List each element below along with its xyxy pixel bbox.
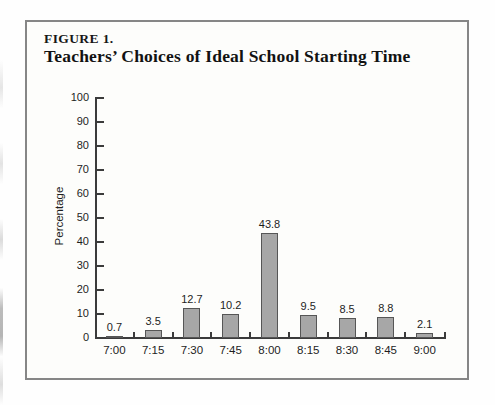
bar xyxy=(183,308,200,338)
y-tick-label: 0 xyxy=(53,331,89,344)
y-tick xyxy=(97,193,104,195)
bar-value-label: 8.5 xyxy=(327,303,367,316)
y-tick xyxy=(97,265,104,267)
figure-panel: FIGURE 1. Teachers’ Choices of Ideal Sch… xyxy=(25,20,469,380)
y-tick xyxy=(97,169,104,171)
y-tick xyxy=(97,217,104,219)
bar-value-label: 8.8 xyxy=(366,302,406,315)
y-tick-label: 100 xyxy=(53,91,89,104)
bar-value-label: 10.2 xyxy=(211,299,251,312)
y-tick-label: 30 xyxy=(53,259,89,272)
bar-chart: Percentage 01020304050607080901000.77:00… xyxy=(27,22,467,378)
y-tick xyxy=(97,97,104,99)
bar-value-label: 3.5 xyxy=(133,315,173,328)
y-tick-label: 90 xyxy=(53,115,89,128)
y-tick-label: 50 xyxy=(53,211,89,224)
bar xyxy=(300,315,317,338)
x-tick xyxy=(288,332,290,337)
bar xyxy=(377,317,394,338)
bar-value-label: 9.5 xyxy=(288,300,328,313)
y-tick xyxy=(97,121,104,123)
x-tick xyxy=(404,332,406,337)
y-tick xyxy=(97,337,104,339)
bar xyxy=(106,336,123,338)
x-tick xyxy=(327,332,329,337)
x-tick xyxy=(210,332,212,337)
bar xyxy=(145,330,162,338)
bar-value-label: 0.7 xyxy=(94,321,134,334)
bar-value-label: 12.7 xyxy=(172,293,212,306)
x-tick xyxy=(444,332,446,337)
y-tick xyxy=(97,289,104,291)
y-tick-label: 20 xyxy=(53,283,89,296)
x-tick xyxy=(133,332,135,337)
bar xyxy=(222,314,239,338)
y-tick-label: 60 xyxy=(53,187,89,200)
scan-artifact xyxy=(0,60,3,405)
bar xyxy=(339,318,356,338)
x-tick xyxy=(172,332,174,337)
y-tick-label: 10 xyxy=(53,307,89,320)
y-tick-label: 40 xyxy=(53,235,89,248)
bar xyxy=(416,333,433,338)
bar xyxy=(261,233,278,338)
page: FIGURE 1. Teachers’ Choices of Ideal Sch… xyxy=(0,0,495,405)
bar-value-label: 43.8 xyxy=(250,218,290,231)
x-tick-label: 9:00 xyxy=(402,344,448,357)
bar-value-label: 2.1 xyxy=(405,318,445,331)
y-tick xyxy=(97,241,104,243)
x-tick xyxy=(365,332,367,337)
y-tick-label: 70 xyxy=(53,163,89,176)
y-tick-label: 80 xyxy=(53,139,89,152)
x-tick xyxy=(249,332,251,337)
y-tick xyxy=(97,145,104,147)
y-tick xyxy=(97,313,104,315)
